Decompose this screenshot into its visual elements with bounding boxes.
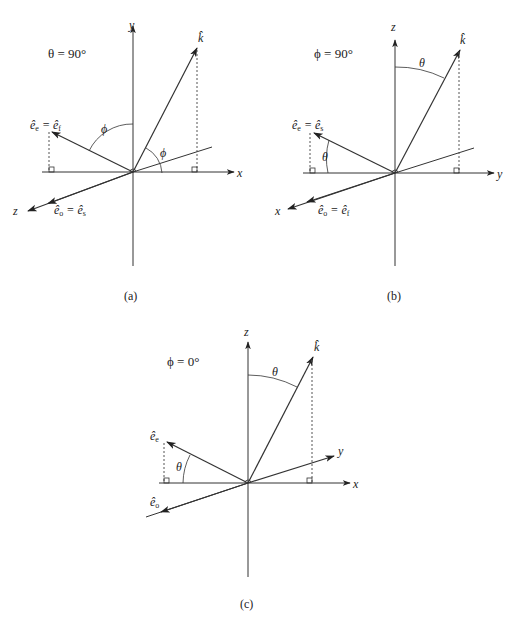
theta-label-lower: θ [176,460,182,474]
z-axis-label: z [12,204,18,218]
ee-equals-ef-label: êe = êf [30,118,61,133]
theta-arc-lower [183,455,190,483]
right-angle-mark [164,478,169,483]
panel-a: y x z k̂ θ = 90° ϕ ϕ êe = êf êo = ês (a) [12,18,243,303]
eo-vector [161,483,248,512]
right-angle-mark [310,168,315,173]
condition-label: ϕ = 90° [314,46,353,61]
phi-arc-upper [89,124,133,151]
right-angle-mark [49,167,54,172]
theta-label-upper: θ [272,365,278,379]
caption-a: (a) [124,289,137,303]
diagram-canvas: y x z k̂ θ = 90° ϕ ϕ êe = êf êo = ês (a)… [0,0,520,625]
panel-b: z y x k̂ ϕ = 90° θ θ êe = ês êo = êf (b) [274,20,503,303]
z-axis-label: z [243,325,249,339]
condition-label: ϕ = 0° [167,354,199,369]
k-hat-label: k̂ [314,340,320,354]
k-hat-label: k̂ [198,31,204,45]
y-axis [248,456,334,483]
z-axis-label: z [390,20,396,34]
theta-label-lower: θ [322,150,328,164]
ee-equals-es-label: êe = ês [292,118,323,133]
tilted-plane-line [133,147,212,172]
ee-label: êe [150,429,159,444]
eo-vector [307,173,395,202]
x-axis-label: x [274,204,281,218]
phi-label-upper: ϕ [101,122,107,136]
eo-label: êo [150,495,159,510]
eo-equals-ef-label: êo = êf [318,203,350,218]
eo-vector [48,172,133,204]
k-vector [248,357,313,483]
caption-b: (b) [387,289,401,303]
ee-vector [52,132,133,172]
right-angle-mark [192,167,197,172]
condition-label: θ = 90° [48,46,86,61]
y-axis-label: y [128,18,135,32]
phi-label-lower: ϕ [160,146,166,160]
x-axis-label: x [236,166,243,180]
theta-label-upper: θ [419,56,425,70]
x-axis-label: x [352,477,359,491]
right-angle-mark [307,478,312,483]
caption-c: (c) [240,597,253,611]
eo-equals-es-label: êo = ês [54,203,86,218]
right-angle-mark [454,168,459,173]
panel-c: z x y k̂ ϕ = 0° θ θ êe êo (c) [146,325,359,611]
y-axis-label: y [337,444,344,458]
k-vector [395,50,460,173]
y-axis-label: y [496,167,503,181]
k-hat-label: k̂ [460,33,466,47]
